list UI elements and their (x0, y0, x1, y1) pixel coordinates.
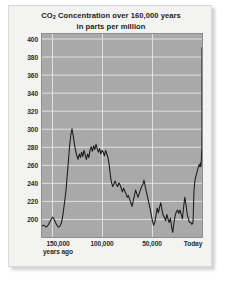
gridlines (42, 34, 202, 237)
x-axis-tick-label: Today (184, 240, 202, 248)
x-axis-tick-value: Today (184, 240, 202, 248)
chart-title-line-1: CO2 Concentration over 160,000 years (9, 11, 213, 22)
x-axis-tick-label: 100,000 (90, 240, 113, 248)
y-axis-tick-label: 300 (27, 125, 38, 132)
y-axis-tick-label: 380 (27, 53, 38, 60)
chart-title-line-2: in parts per million (9, 22, 213, 31)
x-axis-tick-sublabel: years ago (43, 248, 73, 256)
y-axis-tick-label: 240 (27, 179, 38, 186)
y-axis-tick-label: 200 (27, 215, 38, 222)
x-axis-tick-value: 50,000 (142, 240, 162, 248)
plot-area (41, 33, 203, 238)
y-axis-tick-label: 220 (27, 197, 38, 204)
chart-svg (42, 34, 202, 237)
y-axis-tick-label: 340 (27, 89, 38, 96)
y-axis-tick-label: 320 (27, 107, 38, 114)
x-axis-tick-value: 100,000 (90, 240, 113, 248)
y-axis-tick-label: 360 (27, 71, 38, 78)
x-axis-tick-label: 50,000 (142, 240, 162, 248)
x-axis-labels: 150,000years ago100,00050,000Today (41, 240, 203, 262)
y-axis-labels: 400380360340320300280260240220200 (9, 33, 40, 238)
chart-title: CO2 Concentration over 160,000 years in … (9, 11, 213, 32)
x-axis-tick-value: 150,000 (43, 240, 73, 248)
chart-card: CO2 Concentration over 160,000 years in … (8, 5, 212, 267)
x-axis-tick-label: 150,000years ago (43, 240, 73, 256)
chart-title-co2-text: CO (41, 11, 53, 20)
chart-screenshot: CO2 Concentration over 160,000 years in … (0, 0, 230, 291)
y-axis-tick-label: 400 (27, 35, 38, 42)
plot-wrapper (41, 33, 203, 238)
y-axis-tick-label: 280 (27, 143, 38, 150)
chart-title-rest: Concentration over 160,000 years (56, 11, 181, 20)
y-axis-tick-label: 260 (27, 161, 38, 168)
